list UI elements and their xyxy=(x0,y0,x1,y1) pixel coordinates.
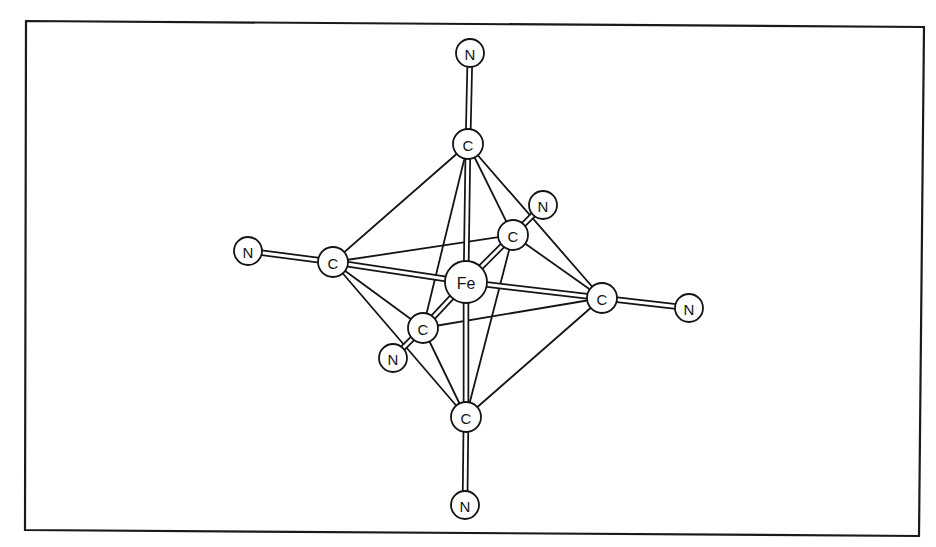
nitrogen-atom: N xyxy=(234,237,262,265)
nitrogen-atom-label: N xyxy=(460,498,471,515)
nitrogen-atom: N xyxy=(456,39,484,67)
carbon-atom: C xyxy=(451,402,481,432)
iron-atom: Fe xyxy=(445,261,487,303)
nitrogen-atom: N xyxy=(379,344,407,372)
carbon-atom-label: C xyxy=(463,137,474,154)
carbon-atom: C xyxy=(587,283,617,313)
carbon-atom-label: C xyxy=(597,291,608,308)
iron-atom-label: Fe xyxy=(457,275,476,292)
nitrogen-atom: N xyxy=(451,491,479,519)
octahedron-edge xyxy=(468,144,602,298)
nitrogen-atom: N xyxy=(529,191,557,219)
carbon-atom-label: C xyxy=(461,410,472,427)
octahedral-complex-diagram: FeCCCCCCNNNNNN xyxy=(0,0,936,547)
carbon-atom: C xyxy=(498,220,528,250)
carbon-atom-label: C xyxy=(508,228,519,245)
nitrogen-atom-label: N xyxy=(684,301,695,318)
carbon-atom: C xyxy=(408,313,438,343)
nitrogen-atom-label: N xyxy=(538,198,549,215)
carbon-atom: C xyxy=(318,247,348,277)
carbon-atom: C xyxy=(453,129,483,159)
nitrogen-atom: N xyxy=(675,294,703,322)
nitrogen-atom-label: N xyxy=(465,46,476,63)
nitrogen-atom-label: N xyxy=(388,351,399,368)
octahedron-edge xyxy=(466,298,602,417)
nitrogen-atom-label: N xyxy=(243,244,254,261)
carbon-atom-label: C xyxy=(328,255,339,272)
carbon-atom-label: C xyxy=(418,321,429,338)
